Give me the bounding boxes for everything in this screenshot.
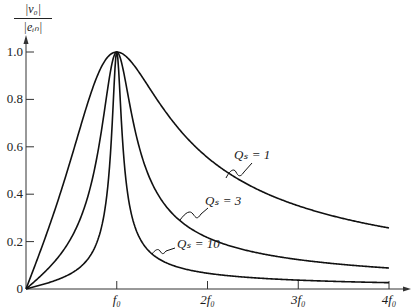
curve-qs10 [26,52,389,289]
resonance-chart [0,0,415,308]
y-tick-label: 0.2 [7,234,23,250]
y-tick-label: 0 [17,281,24,297]
y-tick-label: 0.6 [7,139,23,155]
curve-qs1 [26,52,389,289]
curve-qs3 [26,52,389,289]
series-annotation: Qₛ = 10 [177,236,220,252]
annotation-leader [180,208,208,220]
annotation-leader [152,248,175,254]
y-axis-arrow-icon [24,35,29,44]
x-tick-label: 4f₀ [382,292,397,308]
y-tick-label: 0.8 [7,91,23,107]
x-axis-arrow-icon [403,287,411,292]
series-annotation: Qₛ = 3 [205,193,241,209]
x-tick-label: 3f₀ [291,292,306,308]
y-tick-label: 1.0 [7,44,23,60]
y-tick-label: 0.4 [7,186,23,202]
x-tick-label: f₀ [113,292,121,308]
annotation-leader [226,163,252,178]
series-annotation: Qₛ = 1 [234,147,270,163]
x-tick-label: 2f₀ [200,292,215,308]
